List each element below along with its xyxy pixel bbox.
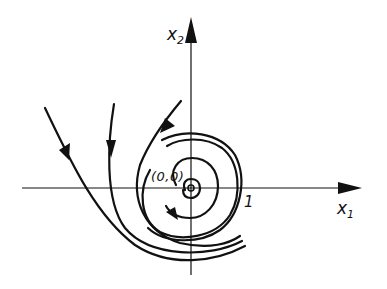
x1-axis-arrow-icon: [338, 182, 362, 194]
tick-label-one: 1: [244, 193, 254, 211]
x2-axis-label: x2: [167, 24, 184, 47]
phase-portrait-diagram: [0, 0, 387, 289]
trajectories: [45, 101, 245, 260]
trajectory-ring-2: [148, 133, 241, 240]
origin-label: (0,0): [151, 169, 184, 184]
x2-axis-arrow-icon: [185, 17, 197, 43]
x1-axis-label: x1: [337, 198, 354, 221]
arrow-down-icon: [106, 140, 116, 158]
x1-axis: [22, 182, 362, 194]
